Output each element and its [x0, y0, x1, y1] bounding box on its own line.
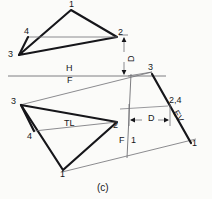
- lower-dim-arrow-left: [130, 118, 135, 123]
- plane-edge-bottom: [62, 139, 196, 172]
- edge-view-label-3: 3: [148, 63, 153, 72]
- lower-dim-arrow-right: [164, 118, 169, 123]
- top-view-vertex-label-4: 4: [24, 27, 29, 36]
- f1-fold-label-f: F: [119, 136, 125, 145]
- auxiliary-triangle-321: [21, 105, 117, 170]
- top-view-vertex-label-3: 3: [8, 50, 13, 59]
- hf-fold-label-h: H: [66, 64, 73, 73]
- lower-depth-dimension-group: [120, 104, 170, 126]
- true-length-line-4-2: [34, 122, 117, 131]
- edge-view-group: [152, 74, 191, 143]
- edge-view-line: [152, 74, 191, 143]
- technical-drawing-figure: 1 2 3 4 D H F 3 2 4 1 TL 3 2,4 1 EV D F …: [0, 0, 212, 199]
- plane-edge-top: [20, 72, 152, 105]
- f1-fold-label-1: 1: [131, 136, 136, 145]
- projector-line-2-4: [120, 106, 168, 109]
- edge-view-label-1: 1: [192, 139, 197, 148]
- aux-view-vertex-label-3: 3: [11, 97, 16, 106]
- aux-view-vertex-label-2: 2: [113, 121, 118, 130]
- hf-fold-label-f: F: [67, 76, 73, 85]
- figure-caption: (c): [97, 183, 109, 193]
- depth-dimension-label: D: [148, 114, 155, 123]
- true-length-label: TL: [64, 119, 75, 128]
- edge-view-label-2-4: 2,4: [169, 96, 182, 105]
- aux-view-vertex-label-4: 4: [27, 132, 32, 141]
- auxiliary-line-3-4: [21, 105, 34, 131]
- dim-arrow-down: [122, 70, 127, 75]
- auxiliary-view-group: [21, 105, 117, 170]
- top-view-vertex-label-2: 2: [118, 28, 123, 37]
- depth-dimension-label-vertical: D: [127, 56, 136, 63]
- top-view-triangle-123: [19, 10, 117, 55]
- dim-arrow-up: [122, 37, 127, 42]
- top-view-group: [19, 10, 117, 55]
- top-view-vertex-label-1: 1: [69, 0, 74, 9]
- aux-view-vertex-label-1: 1: [60, 170, 65, 179]
